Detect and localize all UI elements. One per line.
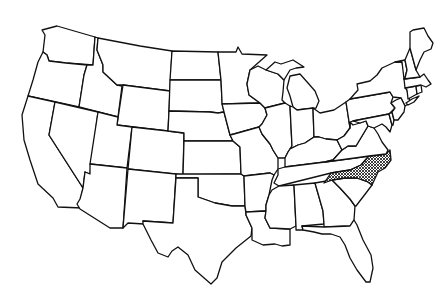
state-florida[interactable] xyxy=(302,220,373,282)
map-canvas xyxy=(0,0,442,305)
state-south-dakota[interactable] xyxy=(169,80,224,113)
state-kansas[interactable] xyxy=(183,141,241,175)
state-north-dakota[interactable] xyxy=(170,51,221,80)
us-map: United States outline map North Carolina xyxy=(0,0,442,305)
state-colorado[interactable] xyxy=(128,127,184,175)
state-arizona[interactable] xyxy=(77,164,127,228)
state-ohio[interactable] xyxy=(313,102,350,140)
state-wyoming[interactable] xyxy=(117,85,170,131)
state-new-mexico[interactable] xyxy=(123,169,176,228)
state-washington[interactable] xyxy=(42,26,95,65)
